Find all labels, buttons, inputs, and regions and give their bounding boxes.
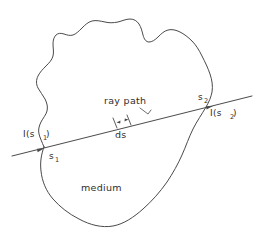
entry-intensity-base: I(s — [23, 129, 35, 139]
ds-tick-left — [113, 118, 117, 128]
entry-point-subscript: 1 — [55, 156, 59, 164]
exit-point-base: s — [198, 92, 203, 102]
ds-label: ds — [115, 129, 127, 140]
ds-tick-right — [127, 115, 131, 125]
entry-intensity-label: I(s 1 ) — [23, 129, 50, 142]
exit-point-label: s 2 — [198, 92, 208, 105]
exit-intensity-label: I(s 2 ) — [210, 108, 237, 121]
entry-point-base: s — [49, 151, 54, 161]
ray-path-label: ray path — [104, 95, 146, 106]
ray-path-diagram: ray path ds medium I(s 1 ) s 1 s 2 I(s 2… — [0, 0, 259, 240]
exit-intensity-base: I(s — [210, 108, 222, 118]
medium-label: medium — [81, 182, 122, 193]
ds-arrow-right-icon — [125, 119, 129, 122]
ray-path-leader-line — [140, 108, 151, 114]
ds-arrow-left-icon — [117, 120, 121, 123]
exit-point-subscript: 2 — [204, 97, 208, 105]
entry-intensity-close: ) — [46, 129, 50, 139]
exit-intensity-close: ) — [233, 108, 237, 118]
entry-point-label: s 1 — [49, 151, 59, 164]
medium-boundary-outline — [37, 19, 213, 227]
